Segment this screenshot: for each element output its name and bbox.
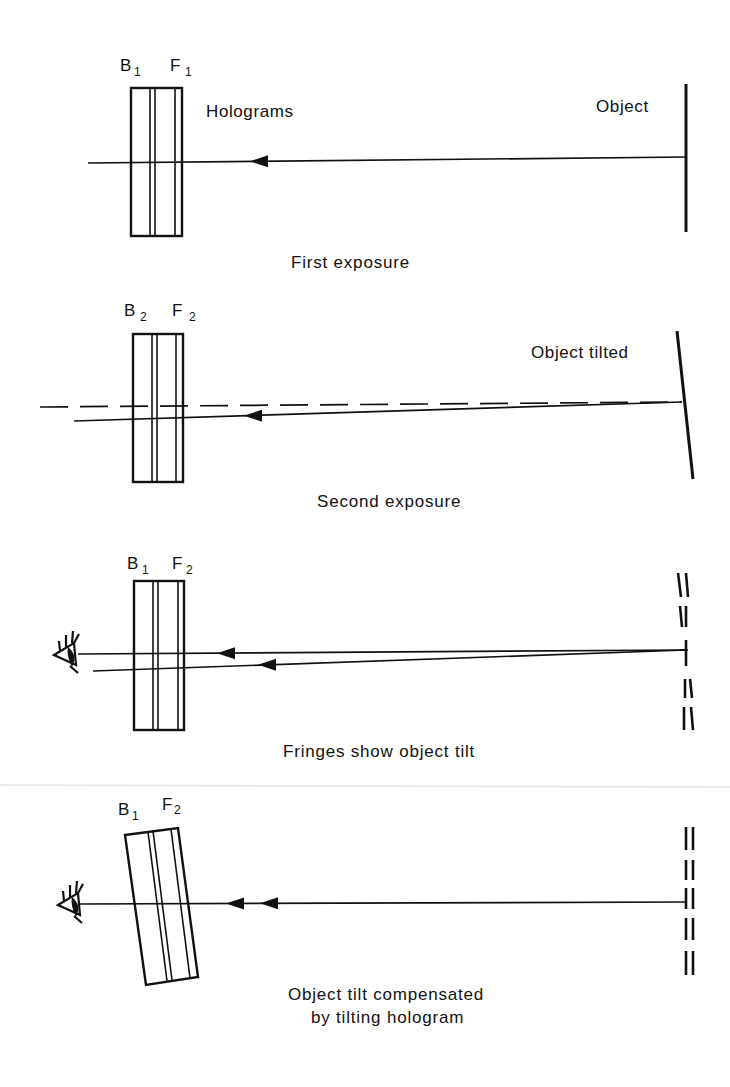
tilted-object-surface: [677, 331, 693, 479]
caption-compensated-line1: Object tilt compensated: [288, 985, 484, 1004]
arrow-head-icon: [217, 647, 235, 659]
label-f2: F2: [172, 301, 196, 324]
caption-second-exposure: Second exposure: [317, 492, 461, 511]
caption-fringes: Fringes show object tilt: [283, 742, 475, 761]
caption-first-exposure: First exposure: [291, 253, 410, 272]
panel-fringes: B1 F2: [54, 554, 693, 761]
panel-first-exposure: B1 F1 Holograms Object First exposure: [88, 56, 686, 272]
eye-icon: [54, 631, 79, 673]
label-b1: B1: [120, 56, 141, 79]
tilted-hologram-plates: [125, 828, 198, 985]
hologram-plates: [134, 581, 184, 730]
caption-compensated-line2: by tilting hologram: [311, 1008, 464, 1027]
eye-icon: [58, 881, 83, 923]
holography-diagram: B1 F1 Holograms Object First exposure B2…: [0, 0, 730, 1087]
object-label: Object: [596, 97, 649, 116]
object-tilted-label: Object tilted: [531, 343, 629, 362]
label-b2: B2: [124, 301, 147, 324]
label-b1: B1: [127, 554, 149, 577]
holograms-label: Holograms: [206, 102, 294, 121]
fringe-pattern: [678, 573, 693, 730]
arrow-head-icon: [260, 897, 278, 909]
hologram-plates: [133, 334, 183, 482]
panel-divider: [0, 785, 730, 787]
panel-second-exposure: B2 F2 Object tilted Second exposure: [40, 301, 693, 511]
arrow-head-icon: [226, 898, 244, 910]
light-ray: [88, 157, 686, 163]
label-f1: F1: [170, 56, 192, 79]
arrow-head-icon: [244, 410, 262, 422]
label-b1: B1: [118, 800, 139, 823]
light-ray: [80, 902, 686, 904]
label-f2: F2: [172, 554, 193, 577]
arrow-head-icon: [250, 155, 268, 167]
fringe-pattern: [686, 827, 693, 975]
arrow-head-icon: [258, 659, 276, 671]
panel-compensated: B1 F2: [58, 795, 693, 1027]
label-f2: F2: [162, 795, 181, 817]
